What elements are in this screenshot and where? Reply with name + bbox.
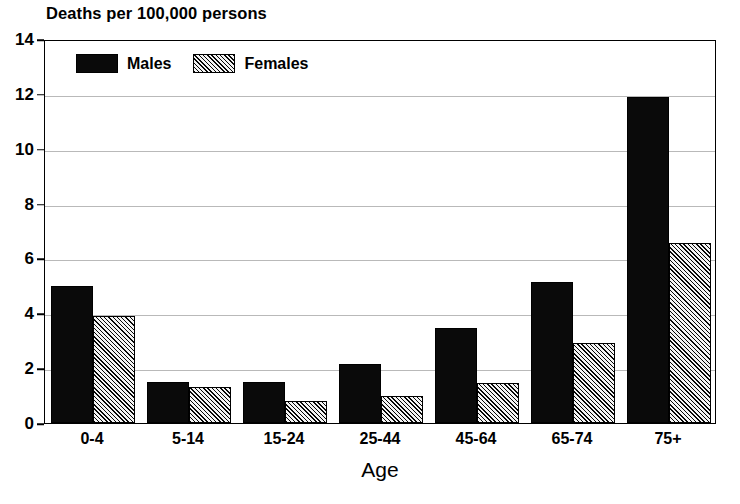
chart-title: Deaths per 100,000 persons <box>46 4 267 23</box>
bar-males-45-64 <box>435 328 477 423</box>
y-tick-mark-10 <box>37 149 44 151</box>
bar-females-65-74 <box>573 343 615 423</box>
y-tick-mark-14 <box>37 39 44 41</box>
y-tick-label-10: 10 <box>15 140 34 160</box>
legend-swatch-males-icon <box>76 54 118 73</box>
bar-males-15-24 <box>243 382 285 423</box>
y-tick-mark-0 <box>37 423 44 425</box>
legend-item-males: Males <box>76 54 171 73</box>
bar-females-5-14 <box>189 387 231 423</box>
bar-group-15-24 <box>243 41 327 423</box>
y-tick-label-4: 4 <box>25 304 34 324</box>
x-tick-label-0-4: 0-4 <box>80 430 103 448</box>
x-tick-label-5-14: 5-14 <box>172 430 204 448</box>
x-axis-title: Age <box>44 458 716 482</box>
y-tick-label-14: 14 <box>15 30 34 50</box>
y-tick-mark-12 <box>37 94 44 96</box>
bar-group-45-64 <box>435 41 519 423</box>
bar-females-75+ <box>669 243 711 423</box>
legend-item-females: Females <box>193 54 308 73</box>
y-axis: 02468101214 <box>0 40 44 424</box>
x-tick-label-25-44: 25-44 <box>360 430 401 448</box>
y-tick-label-8: 8 <box>25 195 34 215</box>
bar-males-5-14 <box>147 382 189 423</box>
bar-females-25-44 <box>381 396 423 423</box>
y-tick-mark-4 <box>37 314 44 316</box>
bar-females-0-4 <box>93 316 135 423</box>
bar-males-65-74 <box>531 282 573 423</box>
bar-females-45-64 <box>477 383 519 423</box>
bar-males-25-44 <box>339 364 381 423</box>
bar-males-0-4 <box>51 286 93 423</box>
y-tick-label-2: 2 <box>25 359 34 379</box>
y-tick-label-0: 0 <box>25 414 34 434</box>
y-tick-label-6: 6 <box>25 249 34 269</box>
y-tick-mark-6 <box>37 259 44 261</box>
bar-group-0-4 <box>51 41 135 423</box>
y-tick-mark-8 <box>37 204 44 206</box>
bar-group-25-44 <box>339 41 423 423</box>
x-tick-label-65-74: 65-74 <box>552 430 593 448</box>
bar-females-15-24 <box>285 401 327 423</box>
chart-container: Deaths per 100,000 persons 02468101214 M… <box>0 0 740 504</box>
x-axis: 0-45-1415-2425-4445-6465-7475+ <box>44 430 716 456</box>
chart-legend: Males Females <box>76 54 309 73</box>
bars-layer <box>45 41 715 423</box>
bar-group-65-74 <box>531 41 615 423</box>
y-tick-label-12: 12 <box>15 85 34 105</box>
plot-area <box>44 40 716 424</box>
bar-males-75+ <box>627 97 669 423</box>
x-tick-label-75+: 75+ <box>654 430 681 448</box>
x-tick-label-45-64: 45-64 <box>456 430 497 448</box>
x-tick-label-15-24: 15-24 <box>264 430 305 448</box>
legend-label-females: Females <box>244 55 308 73</box>
bar-group-5-14 <box>147 41 231 423</box>
legend-label-males: Males <box>127 55 171 73</box>
y-tick-mark-2 <box>37 368 44 370</box>
legend-swatch-females-icon <box>193 54 235 73</box>
bar-group-75+ <box>627 41 711 423</box>
